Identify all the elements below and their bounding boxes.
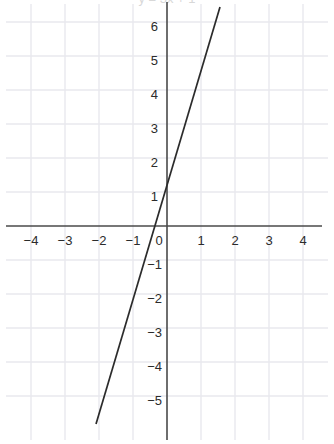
x-tick-label-2: 2: [231, 233, 238, 248]
x-tick-label-1: 1: [197, 233, 204, 248]
y-tick-label--4: −4: [147, 359, 162, 374]
y-tick-label-4: 4: [151, 87, 158, 102]
y-tick-label-1: 1: [151, 189, 158, 204]
x-tick-label--3: −3: [58, 233, 73, 248]
y-tick-label-6: 6: [151, 19, 158, 34]
chart-canvas: −4 −3 −2 −1 0 1 2 3 4 6 5 4 3 2 1 −1 −2 …: [0, 0, 334, 444]
coordinate-plane-chart: y = 3x + 1: [0, 0, 334, 444]
x-tick-label--2: −2: [92, 233, 107, 248]
x-tick-label--4: −4: [24, 233, 39, 248]
x-axis-tick-labels: −4 −3 −2 −1 0 1 2 3 4: [24, 233, 307, 248]
y-tick-label--3: −3: [147, 325, 162, 340]
y-tick-label-2: 2: [151, 155, 158, 170]
y-tick-label--2: −2: [147, 291, 162, 306]
axis-lines: [6, 2, 322, 440]
y-tick-label-3: 3: [151, 121, 158, 136]
x-tick-label-3: 3: [265, 233, 272, 248]
y-tick-label--5: −5: [147, 393, 162, 408]
y-tick-label-5: 5: [151, 53, 158, 68]
x-tick-label--1: −1: [126, 233, 141, 248]
x-tick-label-4: 4: [299, 233, 306, 248]
x-tick-label-0-origin: 0: [155, 233, 162, 248]
y-tick-label--1: −1: [147, 257, 162, 272]
y-axis-tick-labels: 6 5 4 3 2 1 −1 −2 −3 −4 −5: [147, 19, 162, 408]
